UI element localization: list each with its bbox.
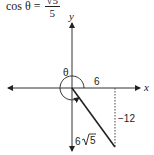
opposite-label: −12: [118, 113, 135, 124]
x-axis-label: x: [143, 81, 149, 93]
hypotenuse-radicand: 5: [90, 135, 96, 146]
y-axis-label: y: [68, 10, 74, 22]
adjacent-label: 6: [94, 76, 100, 87]
hypotenuse-coefficient: 6: [75, 136, 81, 147]
theta-label: θ: [63, 67, 69, 78]
trig-diagram: y x θ 6 −12 6 5: [0, 0, 154, 155]
